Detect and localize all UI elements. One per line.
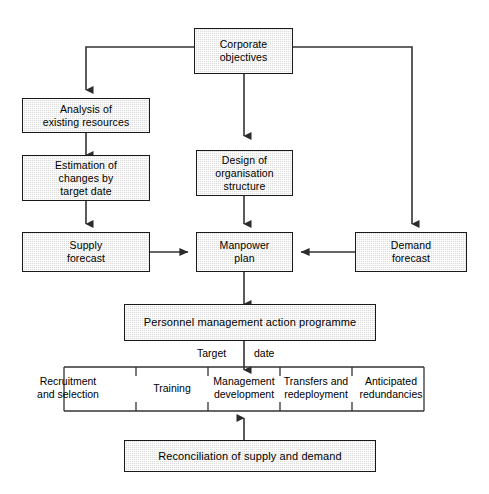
target-date-label-right: date — [254, 347, 274, 360]
outcome-label-recruitment-and-selection: Recruitment and selection — [30, 375, 106, 401]
outcome-label-management-development: Management development — [201, 375, 287, 401]
node-corporate-objectives: Corporate objectives — [194, 28, 293, 74]
target-date-label-left: Target — [197, 347, 226, 360]
outcome-label-training: Training — [132, 382, 212, 395]
edge-corporate-to-demand — [293, 47, 412, 224]
outcome-label-anticipated-redundancies: Anticipated redundancies — [352, 375, 430, 401]
flowchart-diagram: Corporate objectives Analysis of existin… — [0, 0, 489, 494]
edge-corporate-to-analysis — [86, 47, 194, 90]
node-analysis-of-existing-resources: Analysis of existing resources — [22, 98, 150, 133]
node-manpower-plan: Manpower plan — [196, 232, 293, 272]
node-design-of-organisation-structure: Design of organisation structure — [196, 150, 293, 196]
node-supply-forecast: Supply forecast — [22, 232, 150, 272]
outcome-label-transfers-and-redeployment: Transfers and redeployment — [276, 375, 356, 401]
node-reconciliation-of-supply-and-demand: Reconciliation of supply and demand — [124, 440, 376, 472]
node-estimation-of-changes: Estimation of changes by target date — [22, 155, 150, 201]
node-demand-forecast: Demand forecast — [355, 232, 467, 272]
node-personnel-management-action-programme: Personnel management action programme — [124, 304, 376, 341]
